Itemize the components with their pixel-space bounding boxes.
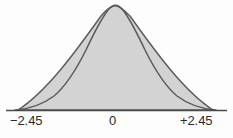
x-tick-label-negative: −2.45	[10, 113, 42, 128]
x-tick-label-zero: 0	[109, 113, 116, 128]
distribution-figure: −2.45 0 +2.45	[0, 0, 233, 138]
x-tick-label-positive: +2.45	[180, 113, 212, 128]
shaded-distribution-area	[18, 6, 213, 111]
x-axis-tick-labels: −2.45 0 +2.45	[0, 113, 233, 138]
